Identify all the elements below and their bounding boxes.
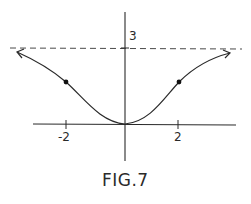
ytick-label-3: 3 — [129, 29, 137, 43]
point-neg2 — [64, 80, 69, 85]
xtick-label-neg2: -2 — [58, 130, 70, 144]
xtick-label-2: 2 — [174, 130, 182, 144]
curve — [17, 52, 230, 124]
x-axis — [33, 124, 236, 125]
figure-caption: FIG.7 — [102, 170, 149, 190]
point-pos2 — [177, 80, 182, 85]
